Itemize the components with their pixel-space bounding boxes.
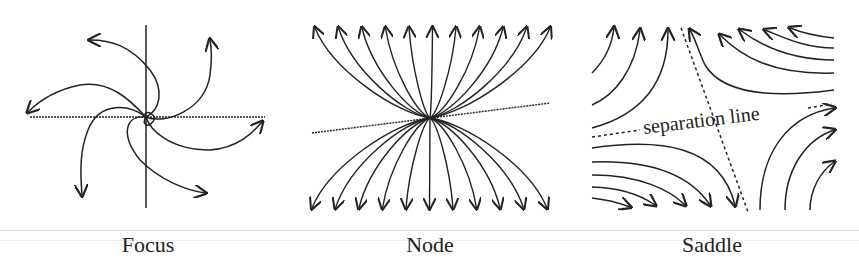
focus-panel bbox=[28, 25, 265, 208]
node-trajectory-bottom bbox=[430, 118, 431, 208]
node-trajectory-top bbox=[362, 28, 430, 118]
separatrix-horizontal-left bbox=[592, 130, 640, 137]
caption-node: Node bbox=[330, 232, 530, 258]
node-trajectory-top bbox=[315, 28, 430, 118]
separation-line-label: separation line bbox=[642, 102, 761, 139]
node-trajectory-bottom bbox=[406, 118, 430, 208]
node-trajectory-top bbox=[409, 28, 430, 118]
node-trajectory-bottom bbox=[359, 118, 430, 208]
node-trajectory-bottom bbox=[430, 118, 547, 208]
caption-saddle: Saddle bbox=[612, 232, 812, 258]
separatrix-horizontal-right bbox=[808, 104, 832, 108]
saddle-panel: separation line bbox=[592, 28, 834, 212]
caption-focus: Focus bbox=[48, 232, 248, 258]
node-trajectory-bottom bbox=[336, 118, 431, 208]
node-trajectory-bottom bbox=[430, 118, 500, 208]
node-trajectory-bottom bbox=[430, 118, 524, 208]
node-trajectory-bottom bbox=[430, 118, 453, 208]
node-trajectory-top bbox=[430, 28, 433, 118]
phase-portraits: separation line bbox=[0, 0, 859, 271]
node-trajectory-top bbox=[430, 28, 527, 118]
